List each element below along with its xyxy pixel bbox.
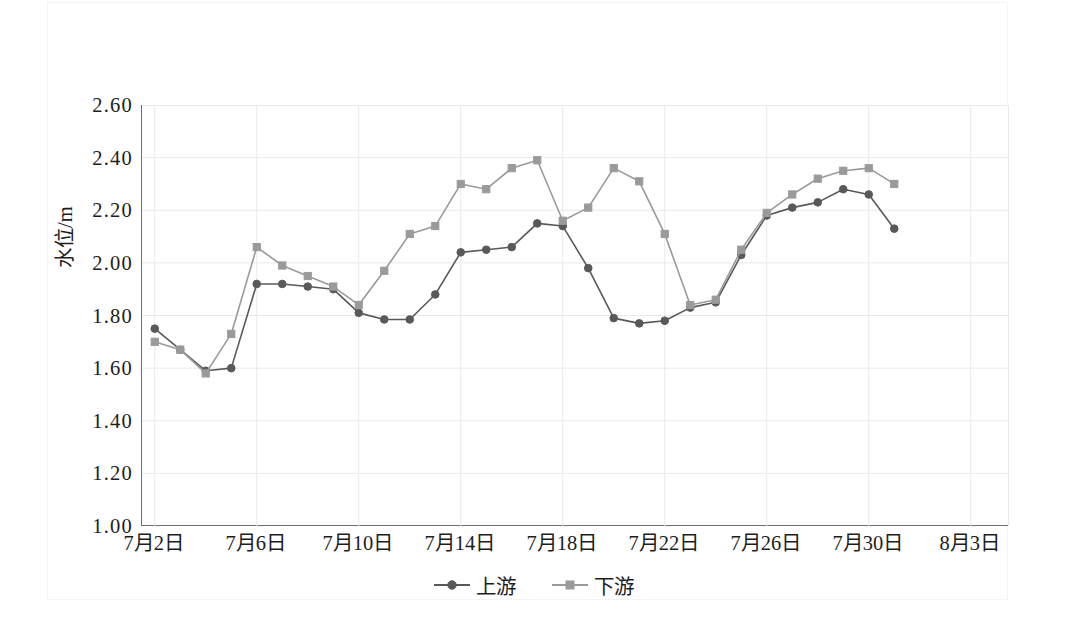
y-axis-tick-label: 2.40 [71, 148, 133, 169]
y-axis-tick-label: 1.60 [71, 358, 133, 379]
y-axis-tick-label: 1.40 [71, 411, 133, 432]
x-axis-tick-label: 7月10日 [322, 533, 393, 554]
x-axis-tick-label: 7月30日 [832, 533, 903, 554]
legend-square-marker-icon [550, 577, 590, 593]
legend-circle-marker-icon [432, 577, 472, 593]
x-axis-tick-label: 7月2日 [124, 533, 185, 554]
legend-label: 下游 [594, 570, 634, 600]
plot-area [141, 105, 1008, 526]
legend-item-upstream[interactable]: 上游 [432, 570, 516, 600]
y-axis-tick-label: 2.20 [71, 200, 133, 221]
x-axis-tick-label: 7月22日 [628, 533, 699, 554]
y-axis-tick-label: 2.00 [71, 253, 133, 274]
x-axis-tick-label: 7月14日 [424, 533, 495, 554]
legend-item-downstream[interactable]: 下游 [550, 570, 634, 600]
legend-label: 上游 [476, 570, 516, 600]
data-series-layer [142, 105, 1009, 526]
y-axis-tick-label: 2.60 [71, 95, 133, 116]
x-axis-tick-label: 7月26日 [730, 533, 801, 554]
chart-legend: 上游下游 [0, 570, 1065, 600]
y-axis-tick-label: 1.80 [71, 306, 133, 327]
x-axis-tick-label: 7月18日 [526, 533, 597, 554]
y-axis-title: 水位/m [48, 206, 78, 268]
x-axis-tick-label: 8月3日 [940, 533, 1001, 554]
chart-figure: 2.602.402.202.001.801.601.401.201.00 水位/… [0, 0, 1065, 641]
x-axis-tick-label: 7月6日 [226, 533, 287, 554]
y-axis-tick-labels: 2.602.402.202.001.801.601.401.201.00 [71, 105, 133, 526]
y-axis-tick-label: 1.20 [71, 463, 133, 484]
x-axis-tick-labels: 7月2日7月6日7月10日7月14日7月18日7月22日7月26日7月30日8月… [141, 533, 1008, 563]
